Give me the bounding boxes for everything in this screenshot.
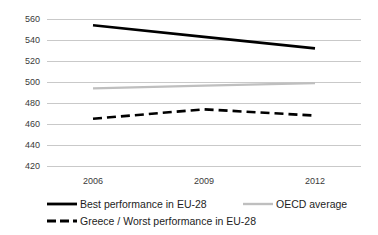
x-tick-label: 2009 xyxy=(194,176,214,186)
y-tick-label: 460 xyxy=(25,119,40,129)
y-tick-label: 540 xyxy=(25,35,40,45)
x-tick-label: 2012 xyxy=(305,176,325,186)
legend-label-greece-worst: Greece / Worst performance in EU-28 xyxy=(80,215,256,227)
legend-label-oecd-average: OECD average xyxy=(276,198,347,210)
y-tick-label: 480 xyxy=(25,98,40,108)
legend-label-best-performance: Best performance in EU-28 xyxy=(80,198,207,210)
y-tick-label: 500 xyxy=(25,77,40,87)
y-tick-label: 420 xyxy=(25,161,40,171)
line-chart: 560 540 520 500 480 460 440 420 2006 200… xyxy=(0,0,378,235)
chart-canvas: 560 540 520 500 480 460 440 420 2006 200… xyxy=(0,0,378,235)
y-tick-label: 520 xyxy=(25,56,40,66)
x-tick-label: 2006 xyxy=(83,176,103,186)
y-tick-label: 440 xyxy=(25,140,40,150)
y-tick-label: 560 xyxy=(25,14,40,24)
